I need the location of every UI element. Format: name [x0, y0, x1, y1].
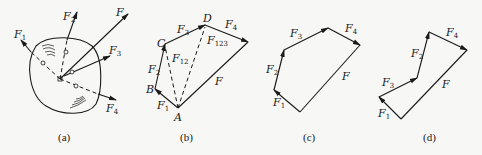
caption-a: (a) [58, 131, 71, 144]
resultant-f [401, 50, 467, 119]
label-f3: F3 [108, 44, 121, 58]
caption-b: (b) [180, 131, 193, 144]
label-f2: F2 [147, 63, 160, 77]
point-d: D [202, 12, 212, 25]
label-f1: F1 [377, 107, 390, 121]
force-polygon-figure: F1 F2 F F3 F4 (a) A B C D F1 F2 F3 F4 F … [0, 0, 482, 155]
panel-b: A B C D F1 F2 F3 F4 F F12 F123 (b) [145, 12, 248, 144]
resultant-f [178, 42, 248, 108]
point-c: C [157, 37, 166, 50]
caption-d: (d) [423, 131, 436, 144]
caption-c: (c) [303, 131, 316, 144]
panel-a: F1 F2 F F3 F4 (a) [13, 6, 128, 144]
label-f: F [214, 75, 223, 88]
label-f1: F1 [156, 99, 169, 113]
point-a: A [173, 111, 182, 124]
panel-c: F1 F2 F3 F4 F (c) [265, 22, 360, 144]
force-f1-dashed [31, 52, 60, 79]
label-f4: F4 [224, 18, 238, 32]
panel-d: F1 F3 F2 F4 F (d) [377, 26, 467, 144]
label-f3: F3 [381, 76, 394, 90]
label-f4: F4 [344, 22, 358, 36]
hatch-top [42, 45, 55, 57]
label-f1: F1 [13, 28, 26, 42]
label-f2: F2 [62, 10, 75, 24]
label-f4: F4 [445, 26, 459, 40]
label-f: F [115, 6, 124, 19]
label-f2: F2 [410, 47, 423, 61]
hatch-bottom [70, 96, 86, 108]
label-f2: F2 [265, 63, 278, 77]
force-f4-dashed [60, 79, 98, 94]
label-f: F [441, 78, 450, 91]
resultant-f [300, 45, 360, 112]
vector-f2 [155, 44, 165, 89]
label-f4: F4 [105, 102, 119, 116]
label-f3: F3 [289, 27, 302, 41]
point-b: B [145, 83, 154, 96]
label-f123: F123 [206, 34, 228, 48]
label-f12: F12 [171, 52, 189, 66]
label-f: F [341, 70, 350, 83]
label-f3: F3 [176, 23, 189, 37]
force-f4-arrow [98, 94, 116, 100]
